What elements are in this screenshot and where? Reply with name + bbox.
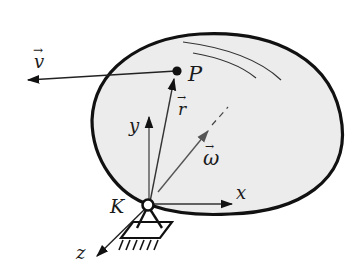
label-k: K [109,195,126,217]
label-y: y [128,115,140,136]
rigid-body-diagram: v → P r → y ω → x K z [0,0,356,280]
label-r-arrow: → [177,91,186,104]
point-p [172,66,181,75]
label-omega-arrow: → [205,140,214,153]
label-z: z [75,242,86,263]
fixed-support [119,206,172,250]
label-v-arrow: → [33,43,43,57]
label-p: P [187,62,203,86]
label-x: x [236,182,246,203]
pivot-k [143,200,154,211]
